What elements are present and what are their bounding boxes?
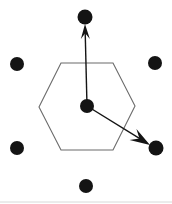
figure-root: [0, 0, 172, 204]
lattice-diagram: [0, 0, 172, 204]
lattice-point-upper-right: [148, 56, 162, 70]
lattice-point-bottom: [79, 179, 93, 193]
lattice-point-upper-left: [10, 57, 24, 71]
lattice-point-top: [78, 10, 93, 25]
lattice-point-lower-right: [149, 141, 164, 156]
lattice-point-center: [80, 99, 94, 113]
lattice-point-lower-left: [10, 141, 24, 155]
